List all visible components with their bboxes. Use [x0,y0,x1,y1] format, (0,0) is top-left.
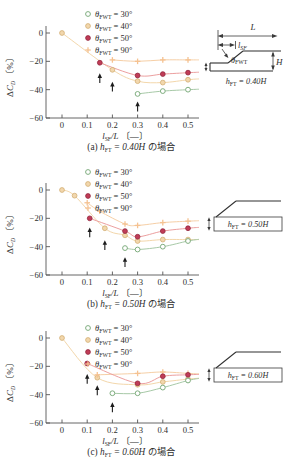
panel-caption: (b) hFT = 0.50H の場合 [87,298,175,310]
data-point-open-circle [135,247,140,252]
legend-label: θFWT = 30° [95,323,132,334]
legend-label: θFWT = 50° [95,347,132,358]
inset-diagram-b: hFT = 0.50H [207,201,282,231]
annotation-arrow-head [88,227,92,232]
panel-c-svg: 00.10.20.30.40.50−20−40−60ΔCD 〔%〕lSF/L 〔… [0,313,283,473]
inset-c-caption: hFT = 0.60H [228,371,270,381]
legend-label: θFWT = 40° [95,335,132,346]
x-axis-label: lSF/L 〔—〕 [102,436,148,447]
x-tick-label: 0.3 [132,425,143,435]
data-point-open-circle [135,391,140,396]
data-point-open-circle [86,326,91,331]
data-point-filled-circle [186,77,191,82]
data-point-open-circle [160,385,165,390]
y-axis-label: ΔCD 〔%〕 [5,210,16,254]
data-point-filled-circle [97,60,102,65]
data-point-filled-circle [160,229,165,234]
inset-diagram-c: hFT = 0.60H [207,352,282,382]
panel-c: 00.10.20.30.40.50−20−40−60ΔCD 〔%〕lSF/L 〔… [0,313,283,473]
x-tick-label: 0.4 [157,120,168,130]
x-tick-label: 0 [60,120,64,130]
annotation-arrow-head [123,257,127,262]
data-point-filled-circle [86,36,91,41]
data-point-open-circle [123,246,128,251]
data-point-filled-circle [86,350,91,355]
inset-a-caption: hFT = 0.40H [226,77,268,87]
data-point-filled-circle [86,182,91,187]
inset-a-L-label: L [249,22,255,32]
x-tick-label: 0.2 [107,277,118,287]
chart-b: 00.10.20.30.40.50−20−40−60ΔCD 〔%〕lSF/L 〔… [5,167,199,310]
legend-label: θFWT = 50° [95,191,132,202]
data-point-open-circle [186,239,191,244]
x-axis-label: lSF/L 〔—〕 [102,288,148,299]
y-tick-label: 0 [39,185,43,195]
panel-a: 00.10.20.30.40.50−20−40−60ΔCD 〔%〕lSF/L 〔… [0,0,283,155]
inset-a-H-label: H [275,57,283,67]
panel-b-svg: 00.10.20.30.40.50−20−40−60ΔCD 〔%〕lSF/L 〔… [0,155,283,313]
chart-c: 00.10.20.30.40.50−20−40−60ΔCD 〔%〕lSF/L 〔… [5,323,199,458]
data-point-filled-circle [135,381,140,386]
data-point-open-circle [160,244,165,249]
legend-label: θFWT = 30° [95,167,132,178]
data-point-filled-circle [86,24,91,29]
data-point-filled-circle [160,72,165,77]
x-tick-label: 0.1 [82,425,93,435]
y-tick-label: −60 [30,418,43,428]
x-tick-label: 0.4 [157,425,168,435]
x-tick-label: 0.5 [183,120,194,130]
data-point-filled-circle [102,226,107,231]
data-point-filled-circle [60,31,65,36]
data-point-filled-circle [110,67,115,72]
y-tick-label: −60 [30,113,43,123]
x-tick-label: 0.4 [157,277,168,287]
y-tick-label: 0 [39,333,43,343]
data-point-filled-circle [60,336,65,341]
x-tick-label: 0.5 [183,277,194,287]
legend-label: θFWT = 90° [95,203,132,214]
figure-drag-reduction-charts: 00.10.20.30.40.50−20−40−60ΔCD 〔%〕lSF/L 〔… [0,0,283,473]
panel-a-svg: 00.10.20.30.40.50−20−40−60ΔCD 〔%〕lSF/L 〔… [0,0,283,155]
y-tick-label: −40 [30,242,43,252]
data-point-filled-circle [160,374,165,379]
y-tick-label: 0 [39,28,43,38]
data-point-filled-circle [87,216,92,221]
data-point-filled-circle [135,73,140,78]
legend-label: θFWT = 30° [95,9,132,20]
y-tick-label: −40 [30,85,43,95]
annotation-arrow-head [85,374,89,379]
data-point-filled-circle [72,193,77,198]
x-tick-label: 0.1 [82,120,93,130]
data-point-open-circle [110,391,115,396]
x-tick-label: 0.5 [183,425,194,435]
data-point-filled-circle [86,338,91,343]
series-line [87,203,199,226]
data-point-filled-circle [160,380,165,385]
inset-diagram-a: L lSF θFWT H hFT = 0.40H [205,22,284,87]
data-point-open-circle [160,89,165,94]
data-point-filled-circle [135,234,140,239]
data-point-filled-circle [86,194,91,199]
x-tick-label: 0.2 [107,425,118,435]
annotation-arrow-head [103,240,107,245]
chart-a: 00.10.20.30.40.50−20−40−60ΔCD 〔%〕lSF/L 〔… [5,9,199,153]
inset-b-caption: hFT = 0.50H [228,220,270,230]
annotation-arrow-head [135,102,139,107]
x-tick-label: 0 [60,425,64,435]
y-tick-label: −60 [30,270,43,280]
data-point-filled-circle [186,372,191,377]
data-point-filled-circle [186,70,191,75]
legend-label: θFWT = 40° [95,179,132,190]
inset-a-theta-label: θFWT [231,56,248,66]
legend-label: θFWT = 90° [95,45,132,56]
data-point-open-circle [135,92,140,97]
y-axis-label: ΔCD 〔%〕 [5,358,16,402]
data-point-filled-circle [123,229,128,234]
data-point-filled-circle [135,79,140,84]
data-point-open-circle [186,378,191,383]
panel-caption: (a) hFT = 0.40H の場合 [87,141,174,153]
legend-label: θFWT = 40° [95,21,132,32]
legend-label: θFWT = 50° [95,33,132,44]
data-point-filled-circle [60,188,65,193]
data-point-filled-circle [160,237,165,242]
